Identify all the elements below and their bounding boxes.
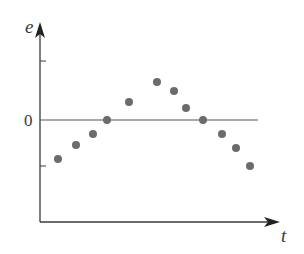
data-point — [199, 116, 207, 124]
data-points — [54, 78, 254, 170]
data-point — [170, 87, 178, 95]
data-point — [89, 130, 97, 138]
x-axis — [40, 217, 280, 227]
data-point — [182, 104, 190, 112]
data-point — [103, 116, 111, 124]
data-point — [72, 141, 80, 149]
data-point — [153, 78, 161, 86]
data-point — [54, 155, 62, 163]
x-axis-label: t — [281, 225, 287, 246]
y-ticks — [40, 61, 46, 166]
y-tick-label-zero: 0 — [24, 111, 33, 130]
y-axis-label: e — [25, 16, 33, 37]
y-axis — [35, 22, 45, 222]
data-point — [246, 162, 254, 170]
data-point — [232, 144, 240, 152]
residual-scatter-chart: e t 0 — [0, 0, 304, 254]
data-point — [218, 130, 226, 138]
data-point — [125, 98, 133, 106]
